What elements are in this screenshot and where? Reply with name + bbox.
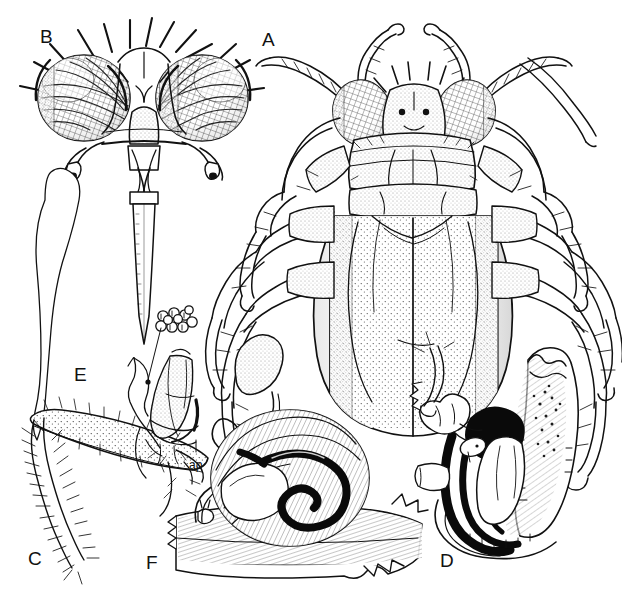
- figure-plate: B A E C F D ap: [0, 0, 622, 603]
- panel-label-a: A: [262, 30, 275, 49]
- panel-a-artwork: [206, 24, 622, 490]
- panel-label-e: E: [74, 365, 87, 384]
- panel-f-artwork: [168, 335, 440, 578]
- panel-label-b: B: [40, 27, 53, 46]
- annotation-ap: ap: [189, 459, 202, 471]
- panel-label-d: D: [440, 551, 454, 570]
- panel-c-artwork: [22, 397, 208, 584]
- pore-cluster-inset-artwork: [145, 306, 197, 385]
- panel-e-artwork: [33, 168, 79, 440]
- panel-label-f: F: [146, 553, 158, 572]
- panel-b-artwork: [20, 18, 264, 344]
- panel-label-c: C: [28, 549, 42, 568]
- plate-artwork: [0, 0, 622, 603]
- pygophore-inset-artwork: [128, 349, 198, 478]
- panel-d-artwork: [398, 332, 600, 559]
